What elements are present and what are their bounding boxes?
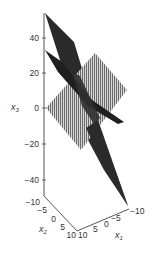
- svg-text:−5: −5: [111, 213, 121, 223]
- svg-text:40: 40: [30, 33, 40, 43]
- svg-text:20: 20: [30, 68, 40, 78]
- svg-text:−5: −5: [37, 205, 47, 215]
- dark-plane-1-front: [86, 120, 128, 206]
- svg-text:10: 10: [78, 230, 88, 240]
- x3-tick-labels: 40 20 0 −20 −40: [25, 33, 40, 185]
- svg-text:−20: −20: [25, 139, 40, 149]
- svg-text:−40: −40: [25, 175, 40, 185]
- svg-text:0: 0: [51, 214, 56, 224]
- svg-text:−10: −10: [130, 206, 145, 216]
- svg-text:10: 10: [67, 230, 77, 240]
- x3-axis-label: x3: [10, 102, 20, 113]
- x1-axis: [77, 209, 129, 231]
- svg-text:0: 0: [34, 103, 39, 113]
- x1-tick-labels: 10 5 0 −5 −10: [78, 206, 145, 240]
- 3d-plane-plot: 40 20 0 −20 −40 x3 −10 −5 0 5 10 x2 10 5…: [0, 0, 156, 255]
- svg-text:0: 0: [104, 219, 109, 229]
- x2-axis-label: x2: [38, 224, 48, 235]
- svg-text:5: 5: [60, 222, 65, 232]
- svg-text:5: 5: [93, 224, 98, 234]
- x1-axis-label: x1: [114, 230, 123, 241]
